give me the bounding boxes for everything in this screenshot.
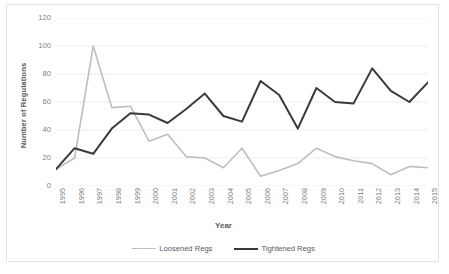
line-chart-svg <box>56 18 428 186</box>
x-axis-title: Year <box>7 221 440 230</box>
legend-swatch-line-icon <box>132 248 156 249</box>
series-line-tightened-regs <box>56 68 428 169</box>
legend-swatch-line-icon <box>234 248 258 250</box>
chart-legend: Loosened RegsTightened Regs <box>7 244 440 253</box>
y-tick-label: 0 <box>17 182 51 190</box>
y-tick-label: 80 <box>17 70 51 78</box>
chart-container: Number of Regulations 020406080100120 19… <box>6 4 439 262</box>
y-axis-tick-labels: 020406080100120 <box>13 18 51 186</box>
legend-item[interactable]: Loosened Regs <box>132 244 212 253</box>
y-tick-label: 20 <box>17 154 51 162</box>
x-axis-tick-labels: 1995199619971998199920002001200220032004… <box>56 188 428 222</box>
legend-label: Tightened Regs <box>261 244 314 253</box>
y-tick-label: 60 <box>17 98 51 106</box>
y-tick-label: 100 <box>17 42 51 50</box>
plot-area <box>56 18 428 186</box>
legend-label: Loosened Regs <box>159 244 212 253</box>
legend-item[interactable]: Tightened Regs <box>234 244 314 253</box>
series-line-loosened-regs <box>56 46 428 176</box>
y-tick-label: 40 <box>17 126 51 134</box>
y-tick-label: 120 <box>17 14 51 22</box>
